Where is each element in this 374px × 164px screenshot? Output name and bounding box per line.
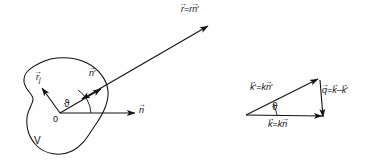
vector-arrow-icon: →: [248, 78, 256, 86]
glyph-n-prime-vector: n→: [192, 5, 197, 14]
vector-r-line: [82, 26, 208, 99]
vector-arrow-icon: →: [88, 64, 96, 72]
diagram-vector-graphics: [0, 0, 374, 164]
glyph-n-vector: n→: [282, 120, 287, 129]
label-r-equals-r-n-prime: r→=rn→′ r⃗ = r n⃗′: [181, 5, 199, 14]
glyph-r-vector: r→: [181, 5, 184, 14]
vector-arrow-icon: →: [191, 0, 199, 8]
volume-label: V: [34, 136, 41, 146]
label-k-equals-k-n: k→=kn→ k⃗ = k n⃗: [268, 120, 287, 129]
glyph-n-vector: n→: [139, 106, 144, 115]
label-n-prime: n→′ n⃗′: [89, 69, 96, 78]
glyph-k-prime-vector: k→: [250, 83, 255, 92]
glyph-k-prime-vector: k→: [342, 86, 347, 95]
glyph-k-vector: k→: [268, 120, 273, 129]
angle-label-left: ϑ: [64, 99, 69, 109]
vector-arrow-icon: →: [34, 68, 42, 76]
glyph-n-prime-vector: n→: [266, 83, 271, 92]
vector-arrow-icon: →: [265, 78, 273, 86]
vector-arrow-icon: →: [331, 81, 339, 89]
label-k-prime-equals-k-n-prime: k→′=kn→′ k⃗′ = k n⃗′: [250, 83, 273, 92]
vector-arrow-icon: →: [138, 101, 146, 109]
label-q-equals-k-minus-k-prime: q→=k→–k→′ q⃗ = k⃗ − k⃗′: [322, 86, 348, 95]
glyph-subscript-j: j: [39, 76, 41, 83]
vector-r-j-line: [42, 88, 60, 113]
origin-label: 0: [53, 115, 58, 124]
vector-arrow-icon: →: [179, 0, 187, 8]
figure-canvas: r→=rn→′ r⃗ = r n⃗′ r→j r⃗_j n→′ n⃗′ n→ n…: [0, 0, 374, 164]
glyph-r-j-vector: r→: [36, 73, 39, 82]
vector-arrow-icon: →: [340, 81, 348, 89]
glyph-n-prime-vector: n→: [89, 69, 94, 78]
label-n: n→ n⃗: [139, 106, 144, 115]
glyph-q-vector: q→: [322, 86, 327, 95]
vector-arrow-icon: →: [281, 115, 289, 123]
vector-arrow-icon: →: [321, 81, 329, 89]
vector-arrow-icon: →: [266, 115, 274, 123]
label-r-j: r→j r⃗_j: [36, 73, 41, 83]
glyph-k-vector: k→: [332, 86, 337, 95]
angle-label-right: ϑ: [272, 102, 277, 112]
